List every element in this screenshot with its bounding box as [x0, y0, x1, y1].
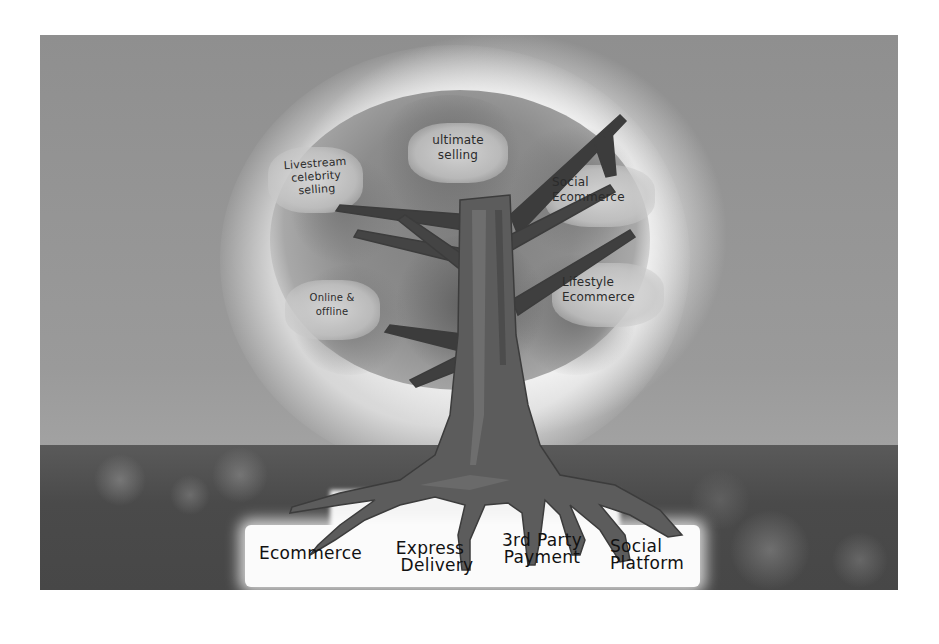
illustration-frame: Livestream celebrity selling ultimate se… [40, 35, 898, 590]
tree-trunk-and-roots [40, 35, 898, 590]
label-line: Ecommerce [253, 545, 368, 562]
label-line: Payment [487, 549, 597, 566]
root-label-express-delivery: Express Delivery [385, 540, 475, 574]
label-line: ultimate [416, 133, 500, 148]
canopy-label-livestream-celebrity-selling: Livestream celebrity selling [275, 154, 358, 198]
root-label-social-platform: Social Platform [610, 538, 700, 572]
label-line: offline [292, 305, 372, 319]
label-line: Ecommerce [562, 290, 658, 305]
label-line: Lifestyle [562, 275, 658, 290]
root-label-ecommerce: Ecommerce [253, 545, 368, 562]
canopy-label-lifestyle-ecommerce: Lifestyle Ecommerce [562, 275, 658, 305]
label-line: Ecommerce [552, 190, 648, 205]
canopy-label-ultimate-selling: ultimate selling [416, 133, 500, 163]
label-line: selling [416, 148, 500, 163]
label-line: Platform [610, 555, 700, 572]
label-line: Delivery [385, 557, 475, 574]
canopy-label-social-ecommerce: Social Ecommerce [552, 175, 648, 205]
label-line: Online & [292, 291, 372, 305]
root-label-third-party-payment: 3rd Party Payment [487, 532, 597, 566]
canopy-label-online-offline: Online & offline [292, 291, 372, 319]
label-line: Social [552, 175, 648, 190]
